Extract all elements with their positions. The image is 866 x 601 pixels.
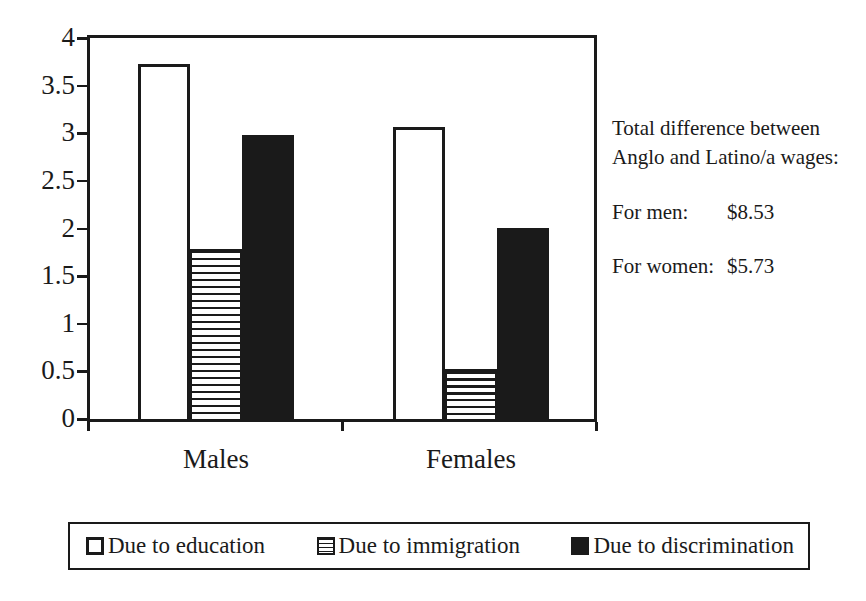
side-note-line-2: Anglo and Latino/a wages: [612,143,860,172]
figure: Total difference between Anglo and Latin… [0,0,866,601]
y-axis-tick [77,418,87,421]
side-note-men-row: For men: $8.53 [612,198,860,227]
side-note-line-1: Total difference between [612,114,860,143]
y-axis-tick [77,370,87,373]
legend-label: Due to education [108,533,265,559]
bar-males-due-to-discrimination [242,135,294,419]
y-axis-tick [77,228,87,231]
side-note-women-row: For women: $5.73 [612,252,860,281]
legend-item-due-to-immigration: Due to immigration [317,533,520,559]
bar-females-due-to-education [393,127,445,419]
women-value: $5.73 [727,252,860,281]
legend-label: Due to discrimination [593,533,794,559]
x-axis-tick [87,422,90,431]
plot-area [87,35,597,422]
y-axis-tick [77,180,87,183]
legend: Due to educationDue to immigrationDue to… [68,522,810,570]
legend-item-due-to-education: Due to education [86,533,265,559]
legend-swatch-white-icon [86,537,104,555]
women-label: For women: [612,252,727,281]
side-note: Total difference between Anglo and Latin… [612,114,860,281]
y-axis-tick-label: 2.5 [13,165,75,195]
y-axis-tick [77,275,87,278]
x-axis-tick [341,422,344,431]
y-axis-tick [77,132,87,135]
legend-swatch-hstripes-icon [317,537,335,555]
x-category-label-females: Females [426,444,516,474]
y-axis-tick-label: 0.5 [13,355,75,385]
legend-item-due-to-discrimination: Due to discrimination [571,533,794,559]
y-axis-tick-label: 3 [13,117,75,147]
x-category-label-males: Males [183,444,249,474]
bar-males-due-to-immigration [190,249,242,419]
y-axis-tick-label: 3.5 [13,70,75,100]
y-axis-tick-label: 4 [13,22,75,52]
bar-males-due-to-education [138,64,190,419]
men-value: $8.53 [727,198,860,227]
bar-females-due-to-discrimination [497,228,549,419]
y-axis-tick-label: 1 [13,308,75,338]
y-axis-tick-label: 2 [13,213,75,243]
y-axis-tick-label: 0 [13,403,75,433]
legend-swatch-black-icon [571,537,589,555]
y-axis-tick [77,37,87,40]
legend-label: Due to immigration [339,533,520,559]
bar-females-due-to-immigration [445,369,497,419]
y-axis-tick-label: 1.5 [13,260,75,290]
men-label: For men: [612,198,727,227]
x-axis-tick [595,422,598,431]
y-axis-tick [77,323,87,326]
y-axis-tick [77,85,87,88]
